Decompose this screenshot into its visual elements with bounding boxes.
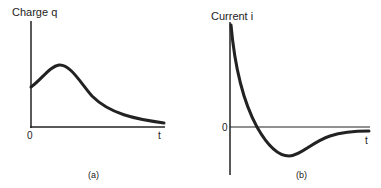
charge-curve xyxy=(31,65,164,123)
figure-canvas xyxy=(0,0,381,188)
current-curve xyxy=(231,25,369,156)
a-y-label: Charge q xyxy=(12,7,57,17)
a-caption: (a) xyxy=(88,170,99,180)
b-zero-label: 0 xyxy=(222,123,228,133)
a-origin-label: 0 xyxy=(27,131,33,141)
b-y-label: Current i xyxy=(211,11,253,21)
b-x-label: t xyxy=(365,136,368,146)
a-x-label: t xyxy=(158,131,161,141)
b-caption: (b) xyxy=(296,170,307,180)
